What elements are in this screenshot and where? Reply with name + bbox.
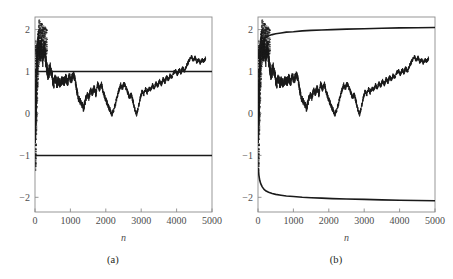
x-axis-label: n xyxy=(121,232,126,243)
y-tick-label: −2 xyxy=(242,192,253,203)
x-tick-label: 2000 xyxy=(96,215,116,226)
figure-container: 010002000300040005000−2−1012n (a) 010002… xyxy=(0,0,453,279)
plot-b: 010002000300040005000−2−1012n xyxy=(223,0,449,254)
data-layer xyxy=(258,20,435,201)
panel-b: 010002000300040005000−2−1012n (b) xyxy=(223,0,449,279)
x-axis-label: n xyxy=(344,232,349,243)
x-tick-label: 1000 xyxy=(60,215,80,226)
lower-envelope xyxy=(258,168,435,201)
y-tick-label: −1 xyxy=(19,150,30,161)
x-tick-label: 1000 xyxy=(283,215,303,226)
panel-a-caption: (a) xyxy=(0,254,226,265)
sample-path xyxy=(35,30,205,143)
upper-envelope xyxy=(258,27,435,58)
y-tick-label: 1 xyxy=(25,66,30,77)
panel-a: 010002000300040005000−2−1012n (a) xyxy=(0,0,226,279)
x-tick-label: 5000 xyxy=(202,215,222,226)
y-tick-label: 0 xyxy=(25,108,30,119)
sample-path xyxy=(258,30,428,143)
panel-b-caption: (b) xyxy=(223,254,449,265)
x-tick-label: 3000 xyxy=(131,215,151,226)
x-tick-label: 3000 xyxy=(354,215,374,226)
x-tick-label: 4000 xyxy=(167,215,187,226)
data-layer xyxy=(35,20,212,170)
x-tick-label: 5000 xyxy=(425,215,445,226)
y-tick-label: 2 xyxy=(248,24,253,35)
x-tick-label: 4000 xyxy=(390,215,410,226)
y-tick-label: 2 xyxy=(25,24,30,35)
y-tick-label: −1 xyxy=(242,150,253,161)
y-tick-label: −2 xyxy=(19,192,30,203)
x-tick-label: 0 xyxy=(256,215,261,226)
plot-a: 010002000300040005000−2−1012n xyxy=(0,0,226,254)
x-tick-label: 2000 xyxy=(319,215,339,226)
y-tick-label: 1 xyxy=(248,66,253,77)
x-tick-label: 0 xyxy=(33,215,38,226)
y-tick-label: 0 xyxy=(248,108,253,119)
